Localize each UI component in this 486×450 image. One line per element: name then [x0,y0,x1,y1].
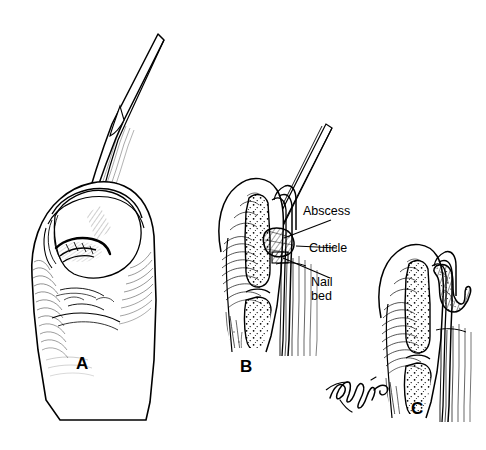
annotation-label-cuticle: Cuticle [309,242,347,256]
annotation-label-nail-bed: Nail bed [311,276,333,303]
medical-illustration-figure: Abscess Cuticle Nail bed A B C [0,0,486,450]
annotation-label-abscess: Abscess [303,205,350,219]
panel-letter-a: A [76,355,89,372]
distal-phalanx-bone-c [405,261,430,354]
panel-letter-c: C [411,400,424,417]
panel-letter-b: B [240,358,253,375]
abscess-b [263,228,294,257]
illustration-canvas [0,0,486,450]
